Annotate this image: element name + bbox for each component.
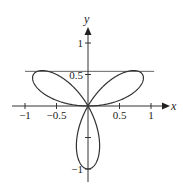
x-axis-arrow-icon bbox=[162, 103, 170, 110]
x-axis-label: x bbox=[170, 99, 177, 113]
y-axis-arrow-icon bbox=[85, 27, 92, 35]
y-tick-label: 0.5 bbox=[69, 69, 83, 81]
rose-curve-plot: −1−0.50.5110.5−1 x y bbox=[0, 0, 183, 190]
x-tick-label: 1 bbox=[148, 109, 154, 121]
x-tick-label: 0.5 bbox=[113, 109, 127, 121]
y-tick-label: 1 bbox=[78, 37, 84, 49]
y-axis-label: y bbox=[83, 12, 90, 26]
x-tick-label: −1 bbox=[19, 109, 31, 121]
x-tick-label: −0.5 bbox=[47, 109, 67, 121]
